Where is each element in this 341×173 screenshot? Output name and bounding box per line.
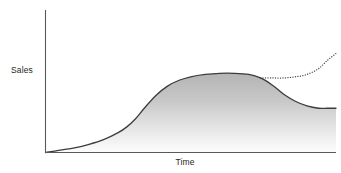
extended-sales-dotted-line <box>260 53 336 78</box>
product-life-cycle-chart: Sales Time <box>0 0 341 173</box>
chart-container: Sales Time <box>0 0 341 173</box>
x-axis-label: Time <box>175 157 194 167</box>
sales-area-fill <box>46 73 337 152</box>
y-axis-label: Sales <box>11 65 33 75</box>
